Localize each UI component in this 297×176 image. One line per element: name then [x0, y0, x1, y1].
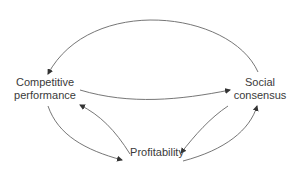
- node-competitive-line2: performance: [5, 89, 85, 102]
- node-profitability-label: Profitability: [130, 146, 184, 158]
- edge-social-to-competitive: [48, 20, 258, 74]
- node-social-line1: Social: [225, 76, 295, 89]
- edge-competitive-to-social: [80, 90, 230, 99]
- node-social-line2: consensus: [225, 89, 295, 102]
- node-competitive-performance: Competitive performance: [5, 76, 85, 102]
- node-social-consensus: Social consensus: [225, 76, 295, 102]
- node-profitability: Profitability: [122, 146, 192, 159]
- edge-competitive-to-profitability: [48, 106, 122, 160]
- edge-profitability-to-social: [183, 106, 257, 161]
- node-competitive-line1: Competitive: [5, 76, 85, 89]
